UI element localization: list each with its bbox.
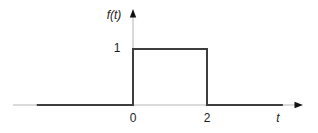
function-trace (37, 49, 283, 105)
y-axis-arrowhead-icon (130, 9, 136, 18)
x-axis-arrowhead-icon (295, 102, 304, 108)
pulse-function-plot: f(t) 1 0 2 t (0, 0, 318, 133)
x-tick-label-2: 2 (204, 112, 211, 124)
y-axis-label: f(t) (107, 9, 122, 21)
x-tick-label-0: 0 (130, 112, 137, 124)
y-tick-label-1: 1 (114, 42, 121, 54)
x-axis-label: t (276, 112, 279, 124)
plot-canvas (0, 0, 318, 133)
